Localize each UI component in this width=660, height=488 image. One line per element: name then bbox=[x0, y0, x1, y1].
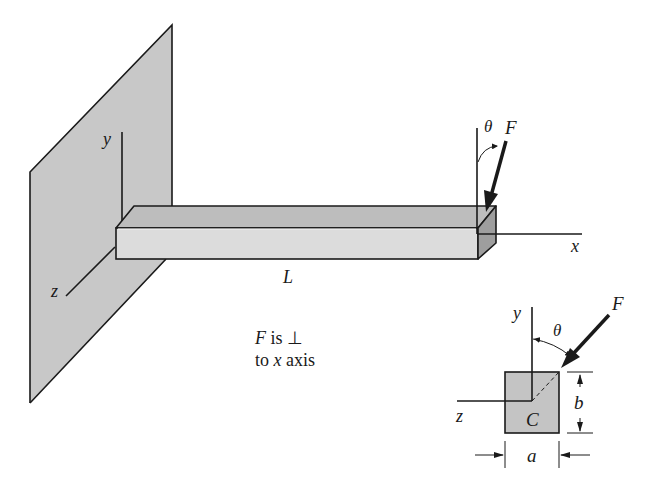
width-label: a bbox=[527, 445, 537, 466]
centroid-label: C bbox=[526, 409, 539, 430]
y-axis-label: y bbox=[101, 129, 111, 149]
section-z-label: z bbox=[455, 406, 463, 426]
section-force-label: F bbox=[611, 293, 624, 314]
force-arrow-icon bbox=[491, 141, 506, 196]
beam bbox=[116, 206, 496, 259]
x-axis-label: x bbox=[570, 236, 579, 256]
theta-arc-icon bbox=[478, 146, 497, 162]
section-y-label: y bbox=[511, 303, 521, 323]
height-label: b bbox=[574, 392, 584, 413]
section-theta-label: θ bbox=[553, 321, 561, 340]
cross-section bbox=[457, 307, 609, 468]
length-label: L bbox=[282, 267, 293, 287]
beam-diagram: y z x L θ F F is ⊥ to x axis y z θ F bbox=[0, 0, 660, 488]
note-line-1: F is ⊥ bbox=[254, 328, 303, 348]
theta-label: θ bbox=[484, 117, 492, 136]
z-axis-label: z bbox=[50, 281, 58, 301]
force-label: F bbox=[504, 117, 517, 138]
note-line-2: to x axis bbox=[255, 350, 315, 370]
